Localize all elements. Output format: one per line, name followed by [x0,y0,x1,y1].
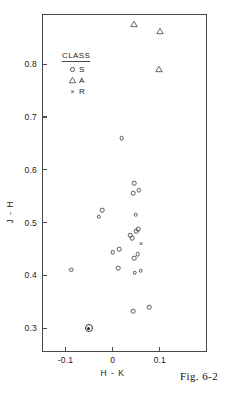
circle-marker [136,188,141,193]
data-point-S [69,267,74,272]
legend-label: A [79,76,85,85]
y-tick-label: 0.7 [12,112,37,122]
y-tick-label: 0.5 [12,218,37,228]
data-point-S [119,136,124,141]
y-tick-mark [42,64,47,65]
cross-marker: × [70,88,74,95]
triangle-marker [156,66,163,72]
triangle-marker [156,28,163,34]
data-point-S [147,305,152,310]
x-tick-label: 0 [110,355,115,365]
y-tick-label: 0.3 [12,323,37,333]
legend-item-A: A [62,76,108,86]
data-point-S [135,252,140,257]
y-tick-mark [42,222,47,223]
y-axis-title: J - H [5,201,15,224]
circle-marker [130,236,135,241]
circle-marker [131,191,136,196]
legend-symbol [66,77,79,83]
data-point-S [133,270,138,275]
triangle-marker [69,77,76,83]
y-tick-label: 0.6 [12,165,37,175]
y-tick-mark [42,116,47,117]
circle-marker [147,305,152,310]
data-point-S [117,247,122,252]
data-point-A [156,28,163,34]
y-tick-mark [42,328,47,329]
data-point-S [136,227,141,232]
legend-rows: SA×R [62,65,108,97]
y-tick-label: 0.8 [12,59,37,69]
circle-marker [110,250,115,255]
x-tick-mark [112,347,113,352]
circle-marker [69,267,74,272]
legend-symbol [66,67,79,72]
cross-marker: × [139,240,143,247]
data-point-S [100,208,105,213]
circle-marker [133,270,138,275]
circle-marker [70,67,75,72]
circle-marker [134,212,139,217]
data-point-A [131,21,138,27]
highlighted-dot-center [87,327,90,330]
circled-dot-marker [85,324,93,332]
legend-symbol: × [66,88,79,95]
data-point-S [132,181,137,186]
x-tick-mark [65,347,66,352]
circle-marker [132,181,137,186]
data-point-R: × [139,240,143,247]
data-point-S [130,236,135,241]
data-point-highlighted [85,324,93,332]
triangle-marker [131,21,138,27]
legend-label: S [79,65,85,74]
legend: CLASS SA×R [62,44,108,97]
legend-title: CLASS [62,51,90,62]
figure-6-2: × -0.100.10.30.40.50.60.70.8 H - K J - H… [0,0,247,405]
circle-marker [119,136,124,141]
legend-item-R: ×R [62,87,108,97]
figure-caption: Fig. 6-2 [180,370,218,382]
circle-marker [131,309,136,314]
circle-marker [135,252,140,257]
x-tick-label: 0.1 [154,355,166,365]
x-tick-label: -0.1 [58,355,73,365]
circle-marker [100,208,105,213]
data-point-S [131,191,136,196]
data-point-S [134,212,139,217]
y-tick-label: 0.4 [12,270,37,280]
data-point-S [136,188,141,193]
circle-marker [117,247,122,252]
x-axis-title: H - K [101,368,125,378]
legend-label: R [79,87,85,96]
data-point-S [110,250,115,255]
y-tick-mark [42,169,47,170]
circle-marker [96,215,101,220]
circle-marker [138,268,143,273]
data-point-S [131,309,136,314]
circle-marker [116,266,121,271]
data-point-S [96,215,101,220]
data-point-S [116,266,121,271]
data-point-S [138,268,143,273]
data-point-A [156,66,163,72]
legend-item-S: S [62,65,108,75]
circle-marker [136,227,141,232]
x-tick-mark [159,347,160,352]
y-tick-mark [42,275,47,276]
